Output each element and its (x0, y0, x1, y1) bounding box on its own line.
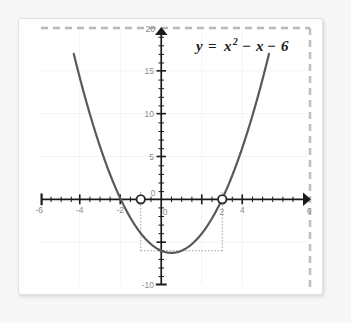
x-tick-label-0: 0 (163, 207, 168, 217)
function-graph[interactable]: -6 -4 -2 0 2 4 6 20 15 10 5 0 -10 y = (19, 19, 322, 294)
equation-exponent: 2 (232, 37, 238, 47)
x-tick-label-2: 2 (219, 207, 224, 217)
y-tick-label-10: 10 (145, 109, 155, 119)
x-axis (41, 193, 311, 206)
y-tick-label-20: 20 (146, 24, 156, 34)
equation-minus-1: − (242, 38, 251, 54)
root-marker-right (218, 195, 226, 203)
y-tick-label-0: 0 (151, 188, 156, 198)
graph-card: -6 -4 -2 0 2 4 6 20 15 10 5 0 -10 y = (18, 18, 323, 295)
equation-base: x (223, 38, 232, 54)
equation-minus-2: − (267, 38, 276, 54)
plot-area: -6 -4 -2 0 2 4 6 20 15 10 5 0 -10 y = (19, 19, 322, 294)
equation-lhs: y (194, 38, 203, 54)
equation-linear: x (255, 38, 264, 54)
x-tick-label-neg2: -2 (116, 205, 124, 215)
x-tick-label-neg6: -6 (35, 205, 43, 215)
equation-constant: 6 (281, 38, 289, 54)
x-tick-label-6: 6 (307, 206, 312, 216)
y-axis (155, 27, 168, 285)
equation-label: y = x 2 − x − 6 (194, 37, 289, 54)
y-tick-label-neg10: -10 (142, 280, 155, 290)
parabola-curve (74, 54, 269, 253)
x-tick-labels: -6 -4 -2 0 2 4 6 (35, 205, 311, 217)
equation-equals: = (208, 38, 217, 54)
dashed-boundaries (41, 28, 310, 287)
y-tick-label-5: 5 (149, 152, 154, 162)
y-tick-label-15: 15 (145, 66, 155, 76)
root-marker-left (137, 195, 145, 203)
x-tick-label-neg4: -4 (76, 205, 84, 215)
x-tick-label-4: 4 (240, 205, 245, 215)
